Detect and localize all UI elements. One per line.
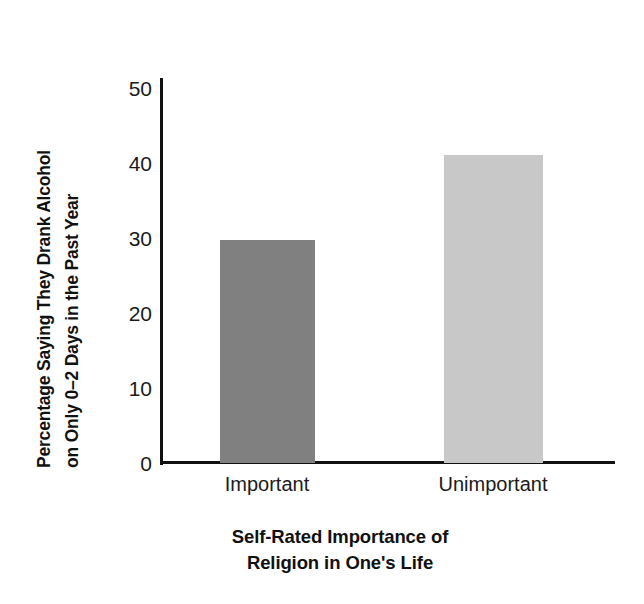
y-tick-label-0: 0 bbox=[106, 453, 152, 474]
bar-important[interactable] bbox=[220, 240, 315, 463]
y-axis-title-line-2: on Only 0–2 Days in the Past Year bbox=[62, 194, 83, 468]
y-tick-label-20: 20 bbox=[106, 303, 152, 324]
bar-unimportant[interactable] bbox=[444, 155, 543, 463]
y-tick-label-40: 40 bbox=[106, 153, 152, 174]
x-category-label-important: Important bbox=[187, 472, 347, 496]
y-axis-title: Percentage Saying They Drank Alcohol on … bbox=[0, 0, 96, 470]
bar-chart-figure: Percentage Saying They Drank Alcohol on … bbox=[0, 0, 644, 604]
plot-area bbox=[163, 78, 615, 463]
y-tick-label-50: 50 bbox=[106, 78, 152, 99]
x-axis-title-line-2: Religion in One's Life bbox=[120, 550, 560, 576]
y-axis-title-line-1: Percentage Saying They Drank Alcohol bbox=[34, 150, 55, 468]
x-axis-title: Self-Rated Importance of Religion in One… bbox=[120, 524, 560, 576]
y-tick-label-10: 10 bbox=[106, 378, 152, 399]
x-category-label-unimportant: Unimportant bbox=[413, 472, 573, 496]
x-axis-title-line-1: Self-Rated Importance of bbox=[120, 524, 560, 550]
y-tick-label-30: 30 bbox=[106, 228, 152, 249]
y-axis-tick-labels: 50 40 30 20 10 0 bbox=[104, 0, 152, 604]
